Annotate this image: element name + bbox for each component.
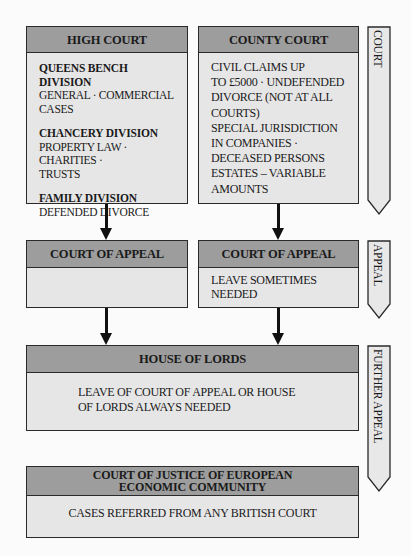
arrow-down-icon (100, 228, 112, 240)
division-text: PROPERTY LAW · CHARITIES · (39, 141, 175, 168)
court-of-appeal-right-text: LEAVE SOMETIMES (211, 273, 346, 287)
arrow-down-icon (272, 228, 284, 240)
court-of-appeal-left-header: COURT OF APPEAL (27, 241, 187, 268)
stage-label-text: FURTHER APPEAL (372, 349, 384, 444)
arrow-shaft (105, 204, 108, 230)
house-of-lords-box: HOUSE OF LORDS LEAVE OF COURT OF APPEAL … (26, 345, 359, 431)
stage-label-text: APPEAL (372, 244, 384, 286)
county-court-text: AMOUNTS (211, 182, 346, 197)
european-court-title: ECONOMIC COMMUNITY (119, 481, 266, 494)
high-court-header: HIGH COURT (27, 27, 187, 53)
queens-bench-division: QUEENS BENCH DIVISION GENERAL · COMMERCI… (39, 62, 175, 116)
county-court-box: COUNTY COURT CIVIL CLAIMS UP TO £5000 · … (198, 26, 359, 204)
house-of-lords-text: LEAVE OF COURT OF APPEAL OR HOUSE (78, 385, 358, 400)
county-court-text: DECEASED PERSONS (211, 151, 346, 166)
court-of-appeal-right-header: COURT OF APPEAL (199, 241, 358, 268)
county-court-text: CIVIL CLAIMS UP (211, 60, 346, 75)
arrow-shaft (277, 308, 280, 335)
arrow-shaft (277, 204, 280, 230)
county-court-text: ESTATES – VARIABLE (211, 166, 346, 181)
division-text: CASES (39, 103, 175, 117)
house-of-lords-text: OF LORDS ALWAYS NEEDED (78, 400, 358, 415)
european-court-box: COURT OF JUSTICE OF EUROPEAN ECONOMIC CO… (26, 466, 359, 538)
european-court-header: COURT OF JUSTICE OF EUROPEAN ECONOMIC CO… (27, 467, 358, 496)
county-court-text: TO £5000 · UNDEFENDED (211, 75, 346, 90)
county-court-text: DIVORCE (NOT AT ALL (211, 90, 346, 105)
chancery-division: CHANCERY DIVISION PROPERTY LAW · CHARITI… (39, 127, 175, 181)
county-court-text: IN COMPANIES · (211, 136, 346, 151)
county-court-text: SPECIAL JURISDICTION (211, 121, 346, 136)
house-of-lords-header: HOUSE OF LORDS (27, 346, 358, 373)
stage-label-further-appeal: FURTHER APPEAL (367, 345, 393, 493)
arrow-down-icon (272, 333, 284, 345)
court-of-appeal-left-body (27, 268, 187, 280)
county-court-text: COURTS) (211, 106, 346, 121)
division-text: GENERAL · COMMERCIAL (39, 89, 175, 103)
stage-label-court: COURT (367, 26, 393, 216)
european-court-text: CASES REFERRED FROM ANY BRITISH COURT (27, 496, 358, 527)
stage-label-text: COURT (372, 30, 384, 67)
court-of-appeal-left-box: COURT OF APPEAL (26, 240, 188, 308)
division-title: CHANCERY DIVISION (39, 127, 175, 141)
division-text: TRUSTS (39, 168, 175, 182)
stage-label-appeal: APPEAL (367, 240, 393, 320)
arrow-shaft (105, 308, 108, 335)
division-title: QUEENS BENCH DIVISION (39, 62, 175, 89)
arrow-down-icon (100, 333, 112, 345)
high-court-box: HIGH COURT QUEENS BENCH DIVISION GENERAL… (26, 26, 188, 204)
court-of-appeal-right-text: NEEDED (211, 287, 346, 301)
court-of-appeal-right-box: COURT OF APPEAL LEAVE SOMETIMES NEEDED (198, 240, 359, 308)
county-court-header: COUNTY COURT (199, 27, 358, 53)
